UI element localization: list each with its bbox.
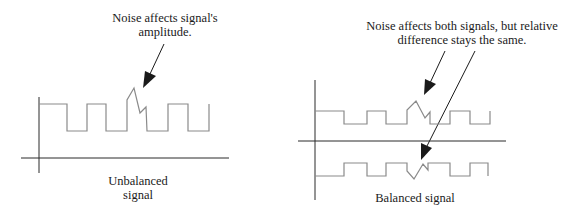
unbalanced-panel: Noise affects signal's amplitude. Unbala… xyxy=(21,11,229,202)
noise-arrow-lower xyxy=(427,51,475,146)
arrowhead-icon xyxy=(143,71,156,88)
balanced-annotation-line1: Noise affects both signals, but relative xyxy=(366,19,558,33)
unbalanced-annotation-line1: Noise affects signal's xyxy=(112,11,218,25)
balanced-caption: Balanced signal xyxy=(375,191,455,205)
noise-arrow xyxy=(150,44,164,74)
noise-arrow-upper xyxy=(430,51,445,83)
balanced-signal-lower-waveform xyxy=(315,163,488,179)
arrowhead-icon xyxy=(421,143,432,160)
unbalanced-annotation-line2: amplitude. xyxy=(138,25,191,39)
balanced-annotation-line2: difference stays the same. xyxy=(398,33,527,47)
unbalanced-caption-line2: signal xyxy=(123,188,153,202)
balanced-signal-upper-waveform xyxy=(315,101,490,124)
unbalanced-caption-line1: Unbalanced xyxy=(108,174,168,188)
balanced-panel: Noise affects both signals, but relative… xyxy=(298,19,558,205)
signal-diagram: Noise affects signal's amplitude. Unbala… xyxy=(0,0,575,219)
arrowhead-icon xyxy=(424,79,436,95)
unbalanced-signal-waveform xyxy=(39,88,209,131)
